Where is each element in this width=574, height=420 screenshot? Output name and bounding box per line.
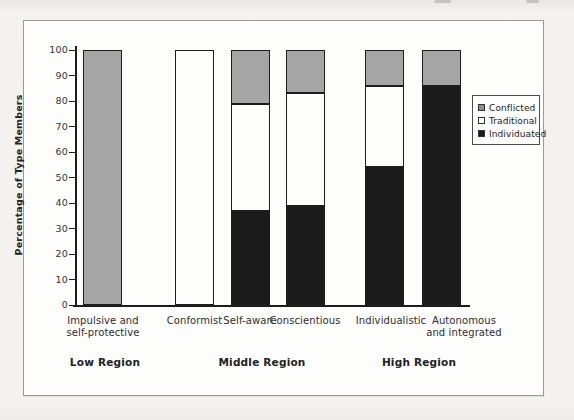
y-axis-tick — [69, 203, 75, 204]
bar-segment-traditional — [231, 104, 270, 211]
region-label: High Region — [334, 356, 504, 368]
y-axis-tick — [69, 254, 75, 255]
region-label: Low Region — [20, 356, 190, 368]
legend-swatch-icon — [478, 130, 485, 137]
legend: ConflictedTraditionalIndividuated — [472, 95, 540, 145]
bar-segment-conflicted — [83, 50, 122, 305]
stacked-bar-chart: Percentage of Type Members ConflictedTra… — [0, 0, 574, 420]
y-axis-tick — [69, 126, 75, 127]
bar-segment-conflicted — [365, 50, 404, 86]
bar-segment-individuated — [286, 206, 325, 305]
legend-label: Conflicted — [489, 103, 535, 113]
bar-segment-individuated — [231, 211, 270, 305]
y-axis-tick-label: 70 — [38, 121, 68, 132]
bar-segment-individuated — [365, 167, 404, 305]
y-axis-tick-label: 80 — [38, 95, 68, 106]
region-label: Middle Region — [177, 356, 347, 368]
y-axis-tick — [69, 50, 75, 51]
y-axis-tick — [69, 228, 75, 229]
legend-label: Individuated — [489, 129, 546, 139]
y-axis-tick-label: 30 — [38, 223, 68, 234]
legend-swatch-icon — [478, 104, 485, 111]
legend-item-conflicted: Conflicted — [478, 101, 535, 114]
y-axis-tick-label: 10 — [38, 274, 68, 285]
y-axis-tick — [69, 177, 75, 178]
bar-segment-traditional — [175, 50, 214, 305]
y-axis-tick — [69, 279, 75, 280]
y-axis-tick — [69, 101, 75, 102]
y-axis-tick-label: 90 — [38, 70, 68, 81]
y-axis-tick-label: 20 — [38, 248, 68, 259]
scanned-figure-page: Percentage of Type Members ConflictedTra… — [0, 0, 574, 420]
category-label: Autonomousand integrated — [399, 315, 529, 338]
bar-segment-conflicted — [286, 50, 325, 93]
bar-segment-individuated — [422, 86, 461, 305]
y-axis-tick — [69, 152, 75, 153]
y-axis-tick-label: 40 — [38, 197, 68, 208]
legend-label: Traditional — [489, 116, 537, 126]
y-axis-tick — [69, 305, 75, 306]
bar-segment-conflicted — [422, 50, 461, 86]
y-axis-tick — [69, 75, 75, 76]
x-axis-line — [73, 305, 470, 307]
y-axis-title: Percentage of Type Members — [13, 96, 24, 256]
legend-swatch-icon — [478, 117, 485, 124]
y-axis-tick-label: 60 — [38, 146, 68, 157]
legend-item-individuated: Individuated — [478, 127, 535, 140]
bar-segment-traditional — [365, 86, 404, 168]
bar-segment-traditional — [286, 93, 325, 205]
y-axis-tick-label: 100 — [38, 44, 68, 55]
bar-segment-conflicted — [231, 50, 270, 104]
y-axis-tick-label: 50 — [38, 172, 68, 183]
y-axis-tick-label: 0 — [38, 299, 68, 310]
legend-item-traditional: Traditional — [478, 114, 535, 127]
y-axis-line — [75, 46, 77, 307]
